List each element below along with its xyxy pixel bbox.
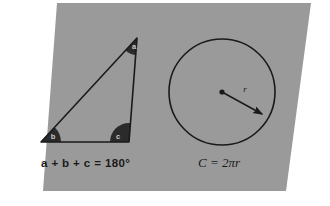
angle-label-c: c (116, 132, 120, 141)
geometry-diagram: a b c a + b + c = 180° r C = 2πr (0, 0, 330, 206)
diagram-canvas: a b c a + b + c = 180° r C = 2πr (0, 0, 330, 206)
angle-label-b: b (51, 132, 56, 141)
triangle-formula: a + b + c = 180° (41, 157, 130, 169)
radius-label: r (243, 84, 247, 94)
circle-formula: C = 2πr (198, 155, 241, 170)
